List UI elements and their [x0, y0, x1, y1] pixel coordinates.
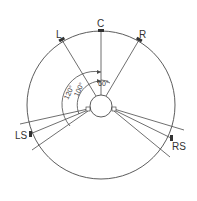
line-rs-mid [114, 110, 171, 138]
line-rs-lower [114, 111, 170, 157]
speaker-layout-diagram: C L R LS RS 60° 100° 120° [0, 0, 197, 201]
speaker-ls-marker [29, 131, 32, 137]
label-r: R [139, 29, 146, 40]
line-ls-lower [32, 111, 88, 150]
speaker-c-marker [98, 29, 104, 32]
line-ls-mid [30, 110, 88, 134]
listener-left-ear [86, 107, 90, 111]
arrow-head [97, 70, 101, 74]
label-rs: RS [172, 141, 186, 152]
line-right [106, 40, 139, 96]
listener-right-ear [112, 107, 116, 111]
label-c: C [97, 18, 104, 29]
label-l: L [56, 29, 62, 40]
label-ls: LS [15, 130, 28, 141]
angle-60-label: 60° [98, 80, 109, 87]
listener-circle [90, 95, 112, 117]
